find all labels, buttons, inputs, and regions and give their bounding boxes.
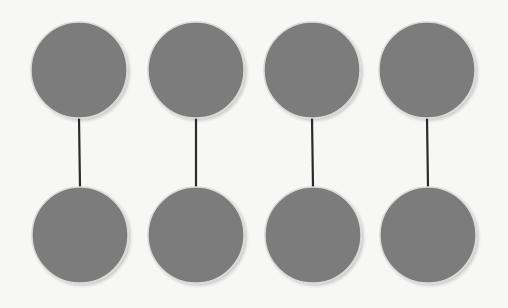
node-pair-1 bbox=[31, 22, 128, 283]
node-bottom-3 bbox=[265, 187, 361, 283]
node-bottom-1 bbox=[32, 187, 128, 283]
edge-4 bbox=[427, 118, 428, 187]
node-top-3 bbox=[264, 22, 360, 118]
node-pair-4 bbox=[379, 22, 476, 283]
node-bottom-2 bbox=[148, 187, 244, 283]
node-pair-2 bbox=[148, 22, 244, 283]
node-top-4 bbox=[379, 22, 475, 118]
edge-1 bbox=[79, 118, 80, 187]
node-bottom-4 bbox=[380, 187, 476, 283]
node-top-2 bbox=[148, 22, 244, 118]
edge-3 bbox=[312, 118, 313, 187]
node-pair-3 bbox=[264, 22, 361, 283]
connected-nodes-diagram bbox=[0, 0, 508, 308]
node-top-1 bbox=[31, 22, 127, 118]
diagram-canvas bbox=[0, 0, 508, 308]
